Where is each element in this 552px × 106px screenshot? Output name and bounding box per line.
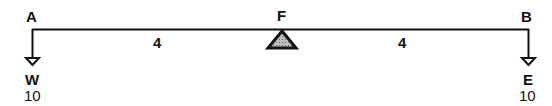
- left-load-arrow-icon: [26, 58, 39, 65]
- point-label-a: A: [26, 8, 37, 25]
- point-label-f: F: [277, 7, 286, 24]
- right-load-arrow-icon: [522, 58, 535, 65]
- right-load-name: E: [523, 71, 533, 88]
- fulcrum-icon: [268, 31, 296, 48]
- left-arm-distance: 4: [153, 34, 162, 51]
- right-arm-distance: 4: [398, 34, 407, 51]
- point-label-b: B: [521, 8, 532, 25]
- lever-diagram: A F B 4 4 W 10 E 10: [0, 0, 552, 106]
- left-load-value: 10: [24, 87, 41, 104]
- left-load-name: W: [25, 71, 40, 88]
- right-load-value: 10: [519, 87, 536, 104]
